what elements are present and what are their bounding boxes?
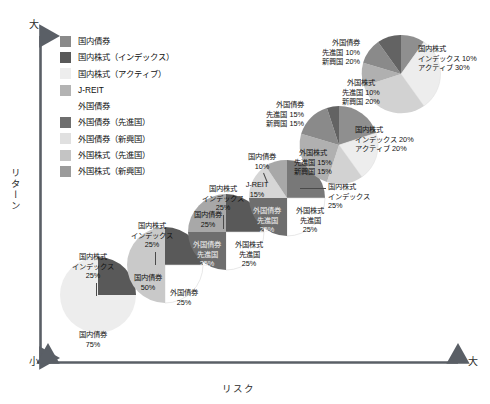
legend-label: 外国債券 xyxy=(78,102,110,110)
callout-p5-domestic-equity: 国内株式 インデックス 20% アクティブ 20% xyxy=(355,125,441,154)
legend-label: 外国株式（先進国） xyxy=(78,151,150,159)
callout-p1-domestic-bond: 国内債券 75% xyxy=(62,330,124,349)
x-axis-high-label: 大 xyxy=(468,353,478,368)
x-axis-title: リスク xyxy=(222,381,255,395)
legend-swatch-icon xyxy=(60,117,71,128)
legend-swatch-icon xyxy=(60,101,71,112)
legend-item-foreign-bond-developed: 外国債券（先進国） xyxy=(60,114,174,130)
legend-label: 外国株式（新興国） xyxy=(78,167,150,175)
legend-label: 国内債券 xyxy=(78,37,110,45)
legend-item-jreit: J-REIT xyxy=(60,82,174,98)
legend: 国内債券 国内株式（インデックス） 国内株式（アクティブ） J-REIT 外国債… xyxy=(60,33,174,180)
callout-p6-foreign-bond: 外国債券 先進国 10% 新興国 20% xyxy=(292,38,360,67)
callout-p4-foreign-bond-developed: 外国債券 先進国 25% xyxy=(245,206,289,235)
y-axis-title: リターン xyxy=(8,168,22,212)
callout-p5-foreign-equity: 外国株式 先進国 15% 新興国 15% xyxy=(282,148,344,177)
leader-line-p4-index xyxy=(300,188,326,189)
legend-item-domestic-equity-active: 国内株式（アクティブ） xyxy=(60,66,174,82)
callout-p4-jreit: J-REIT 15% xyxy=(236,180,278,199)
callout-p6-domestic-equity: 国内株式 インデックス 10% アクティブ 30% xyxy=(418,44,490,73)
leader-line-p1-index xyxy=(96,283,97,296)
callout-p5-foreign-bond: 外国債券 先進国 15% 新興国 15% xyxy=(236,100,304,129)
legend-swatch-icon xyxy=(60,52,71,63)
legend-swatch-icon xyxy=(60,36,71,47)
callout-p4-foreign-equity-developed: 外国株式 先進国 25% xyxy=(286,206,334,235)
legend-label: 国内株式（インデックス） xyxy=(78,53,174,61)
callout-p3-domestic-bond: 国内債券 25% xyxy=(186,210,230,229)
y-axis-low-label: 小 xyxy=(29,353,39,368)
legend-item-foreign-bond-emerging: 外国債券（新興国） xyxy=(60,131,174,147)
legend-label: 外国債券（新興国） xyxy=(78,135,150,143)
callout-p2-foreign-bond: 外国債券 25% xyxy=(160,288,208,307)
callout-p1-index: 国内株式 インデックス 25% xyxy=(62,252,124,281)
legend-swatch-icon xyxy=(60,166,71,177)
legend-label: 国内株式（アクティブ） xyxy=(78,70,166,78)
legend-swatch-icon xyxy=(60,85,71,96)
legend-swatch-icon xyxy=(60,68,71,79)
callout-p2-index: 国内株式 インデックス 25% xyxy=(121,221,183,250)
y-axis-high-label: 大 xyxy=(29,16,39,31)
callout-p4-domestic-bond: 国内債券 10% xyxy=(236,152,288,171)
legend-item-foreign-bond: 外国債券 xyxy=(60,98,174,114)
leader-line-p2-index xyxy=(155,252,156,265)
legend-item-domestic-equity-index: 国内株式（インデックス） xyxy=(60,49,174,65)
callout-p4-index: 国内株式 インデックス 25% xyxy=(328,182,394,211)
callout-p6-foreign-equity: 外国株式 先進国 10% 新興国 20% xyxy=(330,78,392,107)
legend-item-domestic-bond: 国内債券 xyxy=(60,33,174,49)
legend-label: 外国債券（先進国） xyxy=(78,118,150,126)
legend-swatch-icon xyxy=(60,150,71,161)
chart-canvas: 大 小 大 リターン リスク 国内債券 国内株式（インデックス） 国内株式（アク… xyxy=(0,0,490,404)
legend-item-foreign-equity-emerging: 外国株式（新興国） xyxy=(60,163,174,179)
legend-item-foreign-equity-developed: 外国株式（先進国） xyxy=(60,147,174,163)
legend-swatch-icon xyxy=(60,133,71,144)
callout-p3-foreign-equity-developed: 外国株式 先進国 25% xyxy=(225,240,273,269)
legend-label: J-REIT xyxy=(78,86,104,94)
callout-p3-foreign-bond-developed: 外国債券 先進国 25% xyxy=(185,240,229,269)
